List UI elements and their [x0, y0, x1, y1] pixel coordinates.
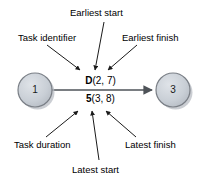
annotation-label-task-duration: Task duration [14, 139, 71, 150]
annotation-label-task-identifier: Task identifier [18, 32, 76, 43]
task-duration-leader-arrow [46, 111, 78, 137]
latest-finish-leader-arrow [106, 111, 136, 137]
latest-start-leader-arrow [92, 111, 99, 160]
earliest-start-leader-arrow [95, 22, 104, 70]
annotation-label-earliest-start: Earliest start [70, 7, 123, 18]
diagram-canvas: 1 3 D(2, 7) 5(3, 8) Earliest start Task … [0, 0, 201, 187]
annotation-label-latest-finish: Latest finish [125, 139, 176, 150]
annotation-label-earliest-finish: Earliest finish [122, 32, 179, 43]
annotation-label-latest-start: Latest start [72, 164, 119, 175]
earliest-times-value: (2, 7) [92, 75, 115, 86]
earliest-finish-leader-arrow [108, 45, 137, 70]
latest-times-value: (3, 8) [92, 93, 115, 104]
task-identifier-leader-arrow [47, 45, 80, 70]
activity-top-values: D(2, 7) [0, 75, 201, 86]
activity-bottom-values: 5(3, 8) [0, 93, 201, 104]
